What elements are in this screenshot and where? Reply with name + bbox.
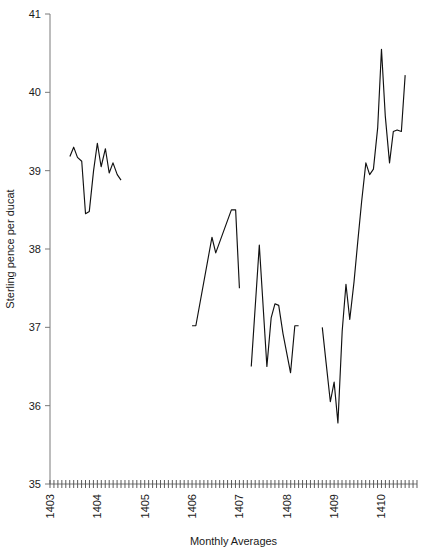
x-axis-year-labels: 14031404140514061407140814091410 (44, 494, 387, 518)
series-line-segment-1407-1408 (251, 245, 298, 373)
x-axis: 14031404140514061407140814091410 (44, 480, 417, 518)
data-series-group (70, 49, 405, 423)
y-tick-label: 41 (29, 8, 41, 20)
y-tick-label: 38 (29, 243, 41, 255)
y-axis-ticks: 35363738394041 (29, 8, 50, 490)
y-tick-label: 35 (29, 478, 41, 490)
y-tick-label: 36 (29, 400, 41, 412)
y-tick-label: 40 (29, 86, 41, 98)
x-year-label: 1409 (328, 494, 340, 518)
x-year-label: 1404 (91, 494, 103, 518)
x-year-label: 1407 (233, 494, 245, 518)
x-axis-title: Monthly Averages (190, 535, 278, 547)
x-year-label: 1406 (186, 494, 198, 518)
y-tick-label: 39 (29, 165, 41, 177)
x-year-label: 1410 (375, 494, 387, 518)
series-line-segment-1409-1410 (322, 49, 405, 423)
chart-container: 35363738394041 1403140414051406140714081… (0, 0, 423, 556)
x-year-label: 1403 (44, 494, 56, 518)
x-year-label: 1408 (281, 494, 293, 518)
x-year-label: 1405 (139, 494, 151, 518)
y-axis: 35363738394041 (29, 8, 50, 490)
y-tick-label: 37 (29, 321, 41, 333)
line-chart: 35363738394041 1403140414051406140714081… (0, 0, 423, 556)
series-line-segment-1403-1404 (70, 143, 121, 214)
series-line-segment-1406-1407 (192, 210, 239, 326)
y-axis-title: Sterling pence per ducat (4, 189, 16, 308)
